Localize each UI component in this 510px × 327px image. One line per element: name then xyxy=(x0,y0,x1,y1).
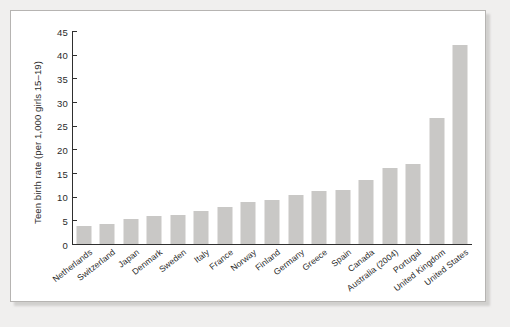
chart-panel: Teen birth rate (per 1,000 girls 15–19) … xyxy=(10,10,486,302)
bar xyxy=(100,224,115,244)
y-tick-label: 5 xyxy=(63,215,68,226)
y-tick-label: 25 xyxy=(57,121,68,132)
bar-slot xyxy=(166,31,190,244)
bar-slot xyxy=(331,31,355,244)
bar-slot xyxy=(143,31,167,244)
y-tick-label: 30 xyxy=(57,97,68,108)
bar-slot xyxy=(72,31,96,244)
bar xyxy=(123,219,138,244)
bar xyxy=(382,168,397,244)
x-axis-tick-labels: NetherlandsSwitzerlandJapanDenmarkSweden… xyxy=(72,245,472,303)
bar xyxy=(264,200,279,244)
bar xyxy=(147,216,162,244)
y-tick-label: 15 xyxy=(57,168,68,179)
bar xyxy=(217,207,232,244)
bar xyxy=(76,226,91,244)
bar xyxy=(241,202,256,244)
bar xyxy=(170,215,185,244)
figure-container: Teen birth rate (per 1,000 girls 15–19) … xyxy=(0,0,510,327)
bar xyxy=(429,118,444,244)
bar-slot xyxy=(237,31,261,244)
bar xyxy=(288,195,303,244)
bar xyxy=(406,164,421,244)
y-tick-label: 0 xyxy=(63,239,68,250)
y-tick-label: 20 xyxy=(57,144,68,155)
bar xyxy=(194,211,209,244)
y-tick-label: 45 xyxy=(57,26,68,37)
bar-slot xyxy=(260,31,284,244)
bar-series xyxy=(72,31,472,244)
x-tick-label: Norway xyxy=(229,247,259,273)
bar xyxy=(359,180,374,244)
bar-slot xyxy=(448,31,472,244)
x-tick-label: Greece xyxy=(300,247,329,273)
bar-slot xyxy=(119,31,143,244)
bar-slot xyxy=(378,31,402,244)
y-tick-label: 35 xyxy=(57,73,68,84)
y-tick-label: 10 xyxy=(57,192,68,203)
bar xyxy=(312,191,327,244)
bar-slot xyxy=(425,31,449,244)
bar xyxy=(453,45,468,244)
y-axis-title: Teen birth rate (per 1,000 girls 15–19) xyxy=(32,43,43,243)
y-tick-label: 40 xyxy=(57,50,68,61)
bar-slot xyxy=(307,31,331,244)
bar-slot xyxy=(190,31,214,244)
bar-slot xyxy=(284,31,308,244)
bar-slot xyxy=(401,31,425,244)
bar-slot xyxy=(354,31,378,244)
bar-slot xyxy=(96,31,120,244)
bar-slot xyxy=(213,31,237,244)
bar xyxy=(335,190,350,244)
plot-area: Teen birth rate (per 1,000 girls 15–19) … xyxy=(11,11,487,303)
